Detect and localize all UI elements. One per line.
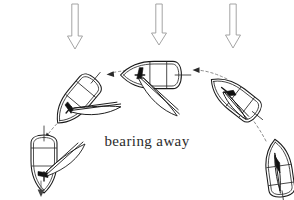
bearing-away-diagram: bearing away xyxy=(0,0,294,200)
hull-outline xyxy=(48,70,105,131)
sailing-diagram-canvas: bearing away xyxy=(0,0,294,200)
wind-arrow-center xyxy=(152,4,167,45)
boat-position-2-luffing-turn xyxy=(203,69,270,130)
track-segment-upper-right xyxy=(196,70,227,79)
wind-arrow-group xyxy=(68,4,241,49)
track-arrowhead-upper-right xyxy=(193,67,200,73)
heading-arrow-head xyxy=(38,190,45,198)
diagram-caption: bearing away xyxy=(104,133,189,149)
hull-outline xyxy=(31,135,57,193)
wind-arrow-left xyxy=(68,4,83,49)
hull-outline xyxy=(203,69,265,125)
track-arrowhead-upper-left xyxy=(107,71,115,77)
mast-step xyxy=(275,153,276,159)
wind-arrow-right xyxy=(226,4,241,48)
boat-position-3-beam-reach xyxy=(121,61,191,116)
boat-position-1-close-hauled xyxy=(262,137,294,200)
boat-position-5-running xyxy=(31,126,85,193)
